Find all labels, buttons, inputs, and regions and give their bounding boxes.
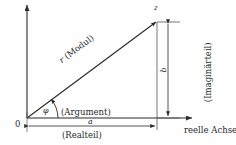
argument-symbol: φ bbox=[43, 107, 49, 115]
origin-label: 0 bbox=[15, 120, 20, 129]
argument-note: (Argument) bbox=[61, 108, 111, 117]
real-part-symbol: a bbox=[88, 118, 93, 126]
diagram-canvas bbox=[0, 0, 236, 145]
imaginary-part-note: (Imaginärteil) bbox=[204, 42, 213, 102]
point-label-z: z bbox=[154, 5, 158, 12]
imaginary-part-symbol: b bbox=[160, 67, 168, 72]
real-part-note: (Realteil) bbox=[62, 131, 102, 140]
complex-number-diagram: z r (Modul) φ (Argument) 0 a (Realteil) … bbox=[0, 0, 236, 145]
argument-arc bbox=[51, 99, 58, 118]
real-axis-label: reelle Achse bbox=[184, 126, 236, 135]
